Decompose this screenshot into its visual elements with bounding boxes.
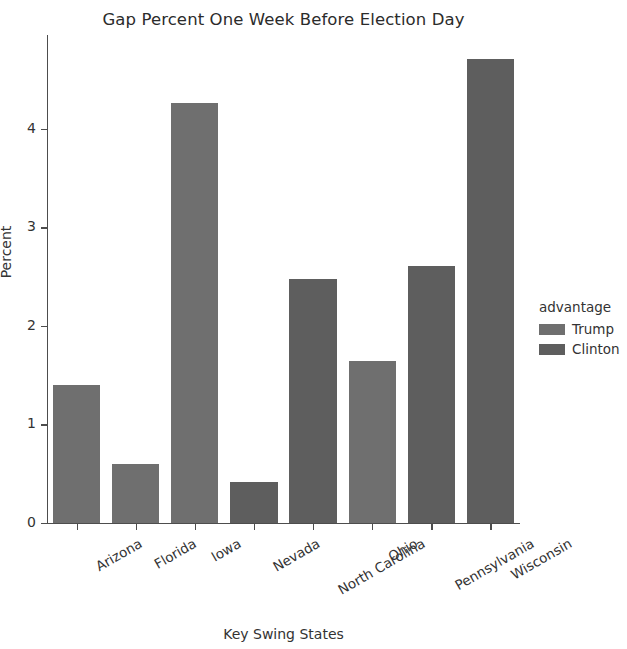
y-axis-tick: 4	[41, 129, 47, 130]
y-axis-tick: 2	[41, 326, 47, 327]
y-axis-tick: 3	[41, 227, 47, 228]
x-axis-tick	[431, 524, 432, 530]
x-axis-title: Key Swing States	[47, 626, 520, 642]
legend-item-clinton[interactable]: Clinton	[539, 341, 625, 357]
bar-wisconsin[interactable]	[467, 59, 514, 523]
y-axis-tick-label: 4	[27, 120, 36, 136]
x-axis-tick-label: Nevada	[270, 535, 323, 575]
legend-entries: TrumpClinton	[539, 321, 625, 357]
bar-arizona[interactable]	[53, 385, 100, 523]
bar-ohio[interactable]	[349, 361, 396, 523]
legend-title: advantage	[539, 299, 625, 315]
x-axis-tick	[313, 524, 314, 530]
legend-label: Clinton	[572, 341, 620, 357]
bar-florida[interactable]	[112, 464, 159, 523]
y-axis-tick: 1	[41, 424, 47, 425]
x-axis-spine	[47, 523, 520, 524]
legend: advantage TrumpClinton	[539, 299, 625, 361]
y-axis-tick-label: 0	[27, 514, 36, 530]
x-axis-tick	[77, 524, 78, 530]
y-axis-tick-label: 1	[27, 415, 36, 431]
x-axis-tick	[372, 524, 373, 530]
legend-item-trump[interactable]: Trump	[539, 321, 625, 337]
legend-swatch-icon	[539, 344, 565, 355]
y-axis-tick-label: 2	[27, 317, 36, 333]
bar-north-carolina[interactable]	[289, 279, 336, 523]
y-axis-spine	[47, 35, 48, 523]
bar-pennsylvania[interactable]	[408, 266, 455, 523]
plot-area: 01234 ArizonaFloridaIowaNevadaNorth Caro…	[47, 35, 520, 523]
legend-label: Trump	[572, 321, 614, 337]
bar-nevada[interactable]	[230, 482, 277, 523]
x-axis-tick	[195, 524, 196, 530]
bar-iowa[interactable]	[171, 103, 218, 523]
x-axis-tick	[136, 524, 137, 530]
y-axis-tick: 0	[41, 523, 47, 524]
legend-swatch-icon	[539, 324, 565, 335]
x-axis-tick	[254, 524, 255, 530]
chart-figure: Gap Percent One Week Before Election Day…	[0, 0, 627, 649]
x-axis-tick-label: Arizona	[92, 535, 144, 574]
x-axis-tick-label: Florida	[151, 535, 199, 572]
chart-title: Gap Percent One Week Before Election Day	[47, 10, 520, 29]
y-axis-title: Percent	[0, 226, 14, 279]
x-axis-tick-label: Iowa	[208, 535, 243, 565]
x-axis-tick	[490, 524, 491, 530]
y-axis-tick-label: 3	[27, 218, 36, 234]
